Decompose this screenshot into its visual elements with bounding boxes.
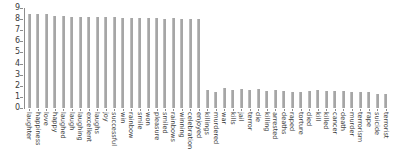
bar-slot <box>364 8 372 108</box>
x-tick-mark <box>157 109 158 111</box>
bar-slot <box>381 8 389 108</box>
x-tick-label: kills <box>229 112 236 125</box>
bar-slot <box>144 8 152 108</box>
x-tick-mark <box>199 109 200 111</box>
x-tick-label: raped <box>288 112 295 131</box>
x-label-slot: war <box>220 109 228 166</box>
x-tick-mark <box>131 109 132 111</box>
bar-slot <box>297 8 305 108</box>
x-tick-mark <box>123 109 124 111</box>
x-tick-mark <box>165 109 166 111</box>
x-tick-mark <box>207 109 208 111</box>
x-label-slot: laughed <box>59 109 67 166</box>
x-label-slot: suicide <box>373 109 381 166</box>
x-label-slot: laughter <box>25 109 33 166</box>
x-tick-mark <box>326 109 327 111</box>
bar <box>113 17 116 108</box>
x-tick-mark <box>173 109 174 111</box>
bar <box>180 19 183 108</box>
bar-slot <box>110 8 118 108</box>
bar-slot <box>356 8 364 108</box>
bar <box>350 92 353 108</box>
x-tick-label: winning <box>178 112 185 138</box>
bar <box>53 16 56 108</box>
x-tick-label: killed <box>322 112 329 130</box>
x-tick-mark <box>140 109 141 111</box>
bar-slot <box>84 8 92 108</box>
x-tick-mark <box>360 109 361 111</box>
x-label-slot: deaths <box>280 109 288 166</box>
y-tick-mark <box>20 41 23 42</box>
x-label-slot: murder <box>347 109 355 166</box>
bar <box>197 19 200 108</box>
x-tick-label: terrorism <box>356 112 363 142</box>
x-tick-label: love <box>42 112 49 126</box>
bar <box>223 88 226 108</box>
x-label-slot: terrorism <box>356 109 364 166</box>
bar <box>274 90 277 108</box>
x-tick-mark <box>250 109 251 111</box>
x-tick-label: jail <box>237 112 244 122</box>
x-tick-label: kill <box>314 112 321 121</box>
x-tick-label: joy <box>102 112 109 122</box>
x-tick-mark <box>241 109 242 111</box>
x-tick-label: torture <box>297 112 304 135</box>
x-axis-labels: laughterhappinesslovehappylaughedlaughla… <box>25 109 390 166</box>
x-label-slot: killing <box>263 109 271 166</box>
bar <box>257 89 260 108</box>
bar <box>155 18 158 108</box>
x-tick-label: smiled <box>161 112 168 134</box>
x-tick-mark <box>301 109 302 111</box>
x-tick-mark <box>377 109 378 111</box>
x-tick-mark <box>292 109 293 111</box>
x-tick-label: arrested <box>271 112 278 140</box>
x-tick-mark <box>258 109 259 111</box>
bar-slot <box>203 8 211 108</box>
x-tick-label: rape <box>365 112 372 127</box>
x-label-slot: excellent <box>84 109 92 166</box>
bar-slot <box>288 8 296 108</box>
x-tick-mark <box>46 109 47 111</box>
bar-slot <box>373 8 381 108</box>
x-tick-mark <box>352 109 353 111</box>
bar <box>359 92 362 108</box>
x-label-slot: win <box>118 109 126 166</box>
bar <box>130 18 133 108</box>
x-tick-label: rainbows <box>169 112 176 142</box>
x-tick-label: enjoyed <box>195 112 202 138</box>
x-label-slot: pleasure <box>152 109 160 166</box>
x-tick-label: laughing <box>76 112 83 141</box>
x-label-slot: laugh <box>67 109 75 166</box>
bar-slot <box>169 8 177 108</box>
x-tick-label: cancer <box>331 112 338 134</box>
y-tick-mark <box>20 108 23 109</box>
bar <box>206 90 209 108</box>
x-tick-mark <box>63 109 64 111</box>
x-tick-mark <box>106 109 107 111</box>
x-tick-mark <box>148 109 149 111</box>
bar-slot <box>263 8 271 108</box>
x-tick-label: celebration <box>186 112 193 149</box>
x-label-slot: murdered <box>212 109 220 166</box>
bar-series <box>25 8 390 108</box>
bar <box>121 18 124 108</box>
x-label-slot: jail <box>237 109 245 166</box>
x-label-slot: die <box>254 109 262 166</box>
bar-slot <box>280 8 288 108</box>
bar <box>96 17 99 108</box>
bar <box>384 94 387 108</box>
x-label-slot: celebration <box>186 109 194 166</box>
x-tick-mark <box>309 109 310 111</box>
x-label-slot: enjoyed <box>195 109 203 166</box>
x-tick-label: laugh <box>68 112 75 130</box>
bar-slot <box>254 8 262 108</box>
bar <box>291 92 294 108</box>
x-tick-mark <box>29 109 30 111</box>
bar-slot <box>25 8 33 108</box>
x-tick-label: terror <box>246 112 253 131</box>
x-tick-mark <box>343 109 344 111</box>
x-tick-label: died <box>305 112 312 126</box>
x-label-slot: raped <box>288 109 296 166</box>
y-tick-mark <box>20 64 23 65</box>
x-tick-label: murder <box>348 112 355 136</box>
